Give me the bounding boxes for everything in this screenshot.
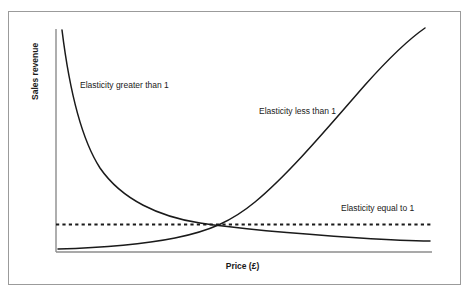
x-axis-title: Price (£) bbox=[0, 261, 471, 271]
y-axis-title: Sales revenue bbox=[30, 43, 40, 100]
annotation-elasticity-equal-to-1: Elasticity equal to 1 bbox=[341, 203, 414, 213]
chart-border-frame bbox=[8, 11, 461, 285]
top-cropped-text-sliver bbox=[0, 0, 471, 4]
annotation-elasticity-greater-than-1: Elasticity greater than 1 bbox=[80, 80, 169, 90]
annotation-elasticity-less-than-1: Elasticity less than 1 bbox=[259, 106, 336, 116]
figure-root: Sales revenue Price (£) Elasticity great… bbox=[0, 0, 471, 298]
